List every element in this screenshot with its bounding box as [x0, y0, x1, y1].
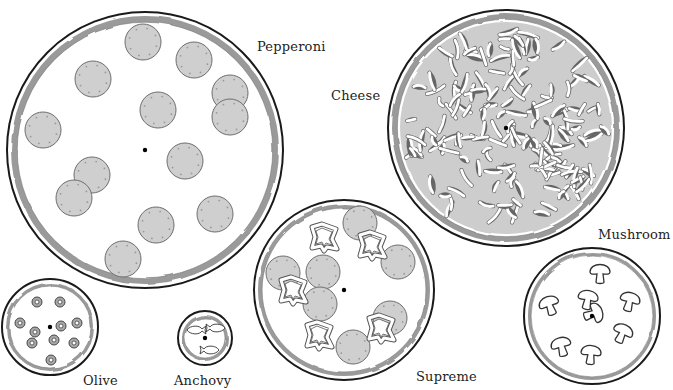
label-supreme: Supreme — [416, 369, 477, 384]
olive-slice — [49, 335, 59, 345]
pepperoni-slice — [381, 245, 415, 279]
olive-slice — [15, 318, 25, 328]
pepperoni-slice — [336, 330, 370, 364]
pizza-pepperoni — [7, 12, 283, 288]
pizza-diagram — [0, 0, 673, 390]
center-dot — [143, 148, 147, 152]
olive-slice — [30, 327, 40, 337]
pizza-olive — [2, 279, 98, 375]
center-dot — [48, 325, 52, 329]
pepperoni-slice — [56, 180, 92, 216]
olive-slice — [27, 338, 37, 348]
pepperoni-slice — [303, 287, 337, 321]
olive-slice — [55, 297, 65, 307]
pepperoni-slice — [167, 143, 203, 179]
olive-slice — [32, 297, 42, 307]
center-dot — [203, 336, 207, 340]
olive-slice — [56, 321, 66, 331]
pepperoni-slice — [140, 92, 176, 128]
center-dot — [342, 288, 346, 292]
pepperoni-slice — [75, 61, 111, 97]
pepperoni-slice — [138, 207, 174, 243]
label-pepperoni: Pepperoni — [257, 39, 326, 54]
center-dot — [504, 126, 508, 130]
olive-slice — [72, 318, 82, 328]
label-olive: Olive — [83, 373, 118, 388]
label-anchovy: Anchovy — [174, 373, 231, 388]
pizza-mushroom — [524, 248, 660, 384]
pizza-cheese — [388, 10, 624, 246]
pepperoni-slice — [176, 42, 212, 78]
center-dot — [590, 314, 594, 318]
olive-slice — [46, 355, 56, 365]
pepperoni-slice — [306, 255, 340, 289]
pepperoni-slice — [25, 112, 61, 148]
pepperoni-slice — [197, 196, 233, 232]
pepperoni-slice — [125, 24, 161, 60]
label-cheese: Cheese — [331, 88, 380, 103]
pizza-anchovy — [178, 311, 232, 365]
pepperoni-slice — [212, 99, 248, 135]
label-mushroom: Mushroom — [598, 227, 671, 242]
olive-slice — [69, 338, 79, 348]
pepperoni-slice — [105, 241, 141, 277]
pizza-supreme — [254, 200, 434, 380]
